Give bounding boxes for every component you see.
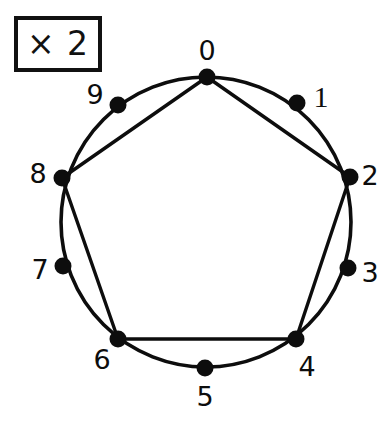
node-label-2: 2 (361, 162, 378, 189)
circle-outline (61, 77, 351, 367)
node-dot-5 (197, 360, 214, 377)
node-dot-7 (55, 258, 72, 275)
node-label-0: 0 (198, 37, 215, 64)
node-dot-4 (288, 331, 305, 348)
node-label-7: 7 (31, 256, 48, 283)
node-dot-0 (199, 69, 216, 86)
node-label-4: 4 (298, 353, 315, 380)
chord-6-to-8 (62, 178, 118, 339)
node-dot-8 (54, 170, 71, 187)
node-label-9: 9 (86, 81, 103, 108)
chord-2-to-4 (296, 177, 350, 339)
node-dot-3 (340, 260, 357, 277)
node-dot-group (54, 69, 359, 377)
node-label-1: 1 (314, 82, 329, 112)
node-dot-6 (110, 331, 127, 348)
chord-8-to-0 (62, 77, 207, 178)
node-label-3: 3 (361, 259, 378, 286)
node-dot-9 (110, 97, 127, 114)
node-dot-1 (289, 95, 306, 112)
node-label-6: 6 (93, 346, 110, 373)
node-label-8: 8 (29, 160, 46, 187)
node-dot-2 (342, 169, 359, 186)
node-label-5: 5 (196, 383, 213, 410)
chord-0-to-2 (207, 77, 350, 177)
